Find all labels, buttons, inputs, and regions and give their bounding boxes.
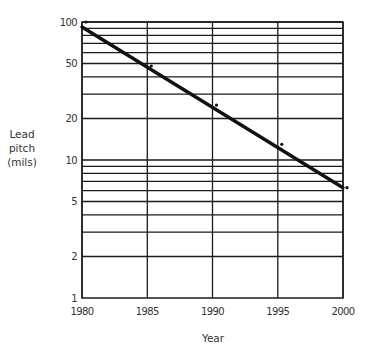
y-tick-label: 2 <box>71 251 77 262</box>
y-axis-ticks: 125102050100 <box>60 17 78 304</box>
x-tick-label: 1985 <box>136 306 159 317</box>
data-point <box>345 186 348 189</box>
x-axis-label: Year <box>201 332 225 344</box>
x-tick-label: 1995 <box>266 306 289 317</box>
y-tick-label: 100 <box>60 17 78 28</box>
data-point <box>84 20 87 23</box>
lead-pitch-chart: 125102050100 19801985199019952000 Leadpi… <box>0 0 365 354</box>
y-axis-label-line: (mils) <box>7 156 37 168</box>
x-tick-label: 2000 <box>331 306 354 317</box>
y-axis-label-line: Lead <box>9 128 34 140</box>
data-point <box>215 104 218 107</box>
y-tick-label: 50 <box>65 58 77 69</box>
x-tick-label: 1980 <box>70 306 93 317</box>
data-point <box>280 143 283 146</box>
y-tick-label: 10 <box>65 155 77 166</box>
y-tick-label: 1 <box>71 293 77 304</box>
y-axis-label-line: pitch <box>9 142 35 154</box>
x-axis-ticks: 19801985199019952000 <box>70 306 354 317</box>
y-axis-label: Leadpitch(mils) <box>7 128 37 168</box>
y-tick-label: 5 <box>71 196 77 207</box>
data-series <box>82 20 349 189</box>
y-tick-label: 20 <box>65 113 77 124</box>
grid-lines <box>82 22 343 298</box>
x-tick-label: 1990 <box>201 306 224 317</box>
